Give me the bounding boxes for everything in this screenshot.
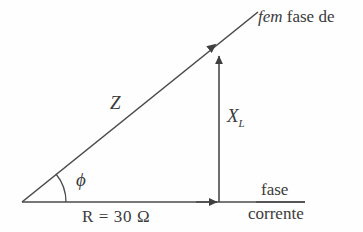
phasor-diagram-figure: fem fase de Z XL ϕ R = 30 Ω fase corrent… xyxy=(0,0,363,232)
impedance-hypotenuse-line xyxy=(22,12,258,202)
label-axis-corrente: corrente xyxy=(248,205,304,223)
label-fem-fase-de: fem fase de xyxy=(258,8,334,26)
label-reactance-main: X xyxy=(227,105,239,126)
label-impedance-z: Z xyxy=(110,93,121,113)
phi-angle-arc xyxy=(56,174,66,202)
label-axis-fase: fase xyxy=(261,181,288,199)
label-fem-rest: fase de xyxy=(283,7,335,26)
label-fem-italic: fem xyxy=(258,7,283,26)
label-reactance-xl: XL xyxy=(227,106,245,129)
label-resistance-value: R = 30 Ω xyxy=(82,208,150,226)
label-reactance-subscript: L xyxy=(239,117,245,129)
hypotenuse-arrow-segment xyxy=(196,44,216,60)
phasor-diagram-svg xyxy=(0,0,363,232)
label-phase-angle-phi: ϕ xyxy=(76,170,86,190)
